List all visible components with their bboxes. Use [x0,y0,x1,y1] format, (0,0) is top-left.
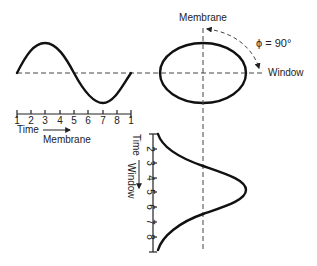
phase-arc [207,29,259,68]
v-tick-label: 3 [145,160,156,166]
v-tick-label: 2 [145,146,156,152]
v-tick-label: 8 [145,234,156,240]
h-tick-label: 4 [57,115,63,126]
h-tick-label: 7 [100,115,106,126]
window-label-vertical: Window [126,163,137,199]
h-tick-label: 6 [85,115,91,126]
h-tick-label: 1 [128,115,134,126]
v-tick-label: 5 [145,189,156,195]
v-tick-label: 7 [145,219,156,225]
time-label-vertical: Time [131,134,142,156]
window-label-right: Window [268,67,304,78]
h-tick-label: 5 [71,115,77,126]
window-waveform [158,134,246,250]
membrane-label-bottom: Membrane [43,134,91,145]
v-tick-label: 4 [145,175,156,181]
phase-angle-label: ϕ = 90° [256,37,291,49]
v-tick-label: 6 [145,204,156,210]
membrane-label-top: Membrane [179,12,227,23]
h-tick-label: 8 [114,115,120,126]
phase-diagram: 1 2 3 4 5 6 7 8 1 Time Membrane Membrane… [0,0,317,266]
time-label-horizontal: Time [17,124,39,135]
h-tick-label: 3 [42,115,48,126]
time-axis-vertical: 2 3 4 5 6 7 8 [145,134,157,252]
